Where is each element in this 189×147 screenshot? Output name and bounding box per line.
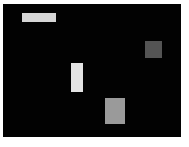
- gray-square: [105, 98, 125, 124]
- dark-square: [145, 41, 162, 58]
- tall-rect: [71, 63, 83, 92]
- top-bar: [22, 13, 56, 22]
- black-canvas: [3, 4, 181, 137]
